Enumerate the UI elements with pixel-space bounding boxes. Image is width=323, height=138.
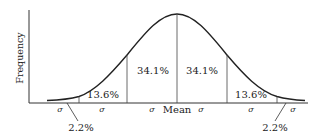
bell-curve — [47, 14, 305, 101]
sigma-label: σ — [198, 105, 204, 114]
sigma-label: σ — [149, 105, 155, 114]
sigma-label: σ — [248, 105, 254, 114]
region-label-center-left: 34.1% — [137, 65, 169, 76]
sigma-label: σ — [57, 105, 63, 114]
tail-pointer-left — [67, 103, 78, 121]
y-axis-label: Frequency — [14, 32, 25, 84]
region-label-center-right: 34.1% — [186, 65, 218, 76]
sigma-label: σ — [290, 105, 296, 114]
tail-label-left: 2.2% — [68, 122, 93, 133]
sigma-label: σ — [99, 105, 105, 114]
normal-distribution-diagram: Frequency 13.6% 34.1% 34.1% 13.6% σ σ σ … — [0, 0, 323, 138]
tail-label-right: 2.2% — [262, 122, 287, 133]
mean-label: Mean — [163, 104, 192, 115]
tail-pointer-right — [275, 103, 286, 121]
region-label-band-right: 13.6% — [235, 89, 267, 100]
region-label-band-left: 13.6% — [87, 89, 119, 100]
